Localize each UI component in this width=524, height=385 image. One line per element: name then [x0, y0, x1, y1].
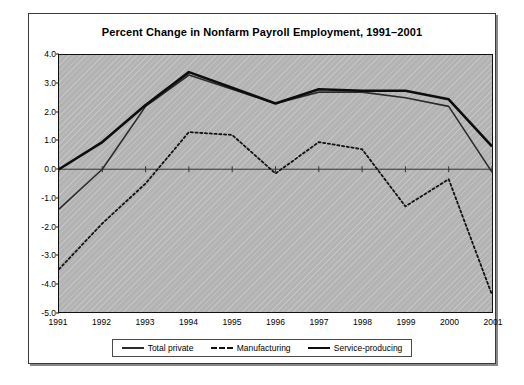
x-axis-tick-label: 2000: [440, 317, 459, 327]
plot-lines: [59, 55, 492, 312]
solid-thick-swatch: [308, 347, 330, 350]
x-axis-tick-label: 1999: [397, 317, 416, 327]
x-axis-tick-label: 1996: [266, 317, 285, 327]
legend-item[interactable]: Total private: [122, 343, 194, 353]
chart-title: Percent Change in Nonfarm Payroll Employ…: [29, 26, 495, 38]
figure-frame: Percent Change in Nonfarm Payroll Employ…: [28, 13, 496, 364]
dashed-swatch: [211, 347, 233, 349]
x-axis-tick-label: 1993: [136, 317, 155, 327]
series-line-manufacturing: [59, 132, 492, 295]
legend-item[interactable]: Service-producing: [308, 343, 403, 353]
x-axis-tick-label: 2001: [484, 317, 503, 327]
plot-area: [58, 54, 493, 313]
solid-thin-swatch: [122, 347, 144, 349]
legend-item[interactable]: Manufacturing: [211, 343, 291, 353]
x-axis-tick-label: 1991: [49, 317, 68, 327]
x-axis-tick-label: 1992: [92, 317, 111, 327]
series-line-service-producing: [59, 72, 492, 169]
x-axis-tick-label: 1997: [310, 317, 329, 327]
x-axis-tick-label: 1995: [223, 317, 242, 327]
y-axis-tick-marks: [29, 54, 61, 313]
legend-label: Service-producing: [334, 343, 403, 353]
legend-label: Manufacturing: [237, 343, 291, 353]
x-axis-tick-labels: 1991199219931994199519961997199819992000…: [58, 317, 493, 333]
x-axis-tick-label: 1994: [179, 317, 198, 327]
legend-label: Total private: [148, 343, 194, 353]
chart-legend: Total privateManufacturingService-produc…: [112, 339, 412, 357]
x-axis-tick-label: 1998: [353, 317, 372, 327]
